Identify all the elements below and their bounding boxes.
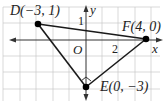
point-D [35, 21, 42, 28]
x-axis-arrow-left-icon [9, 38, 16, 43]
label-point-F: F(4, 0) [122, 20, 161, 34]
point-F [143, 36, 150, 43]
y-tick-label-1: 1 [78, 15, 84, 27]
x-tick-label-2: 2 [112, 43, 118, 55]
y-axis-arrow-down-icon [84, 94, 89, 101]
label-point-E: E(0, −3) [100, 80, 148, 94]
y-axis-label: y [90, 3, 96, 16]
origin-label: O [73, 43, 82, 56]
x-axis-label: x [152, 42, 158, 55]
y-axis-arrow-up-icon [84, 5, 89, 12]
point-E [83, 84, 90, 91]
label-point-D: D(−3, 1) [10, 4, 60, 18]
